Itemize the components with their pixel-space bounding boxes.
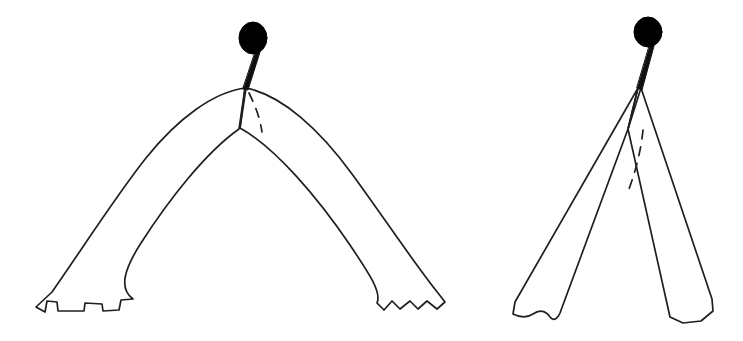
figure-line-drawing: Two line drawings of a forked bifurcated… bbox=[0, 0, 743, 341]
figure-background bbox=[0, 0, 743, 341]
left-panel-head bbox=[239, 22, 267, 54]
right-panel-head bbox=[634, 17, 662, 47]
